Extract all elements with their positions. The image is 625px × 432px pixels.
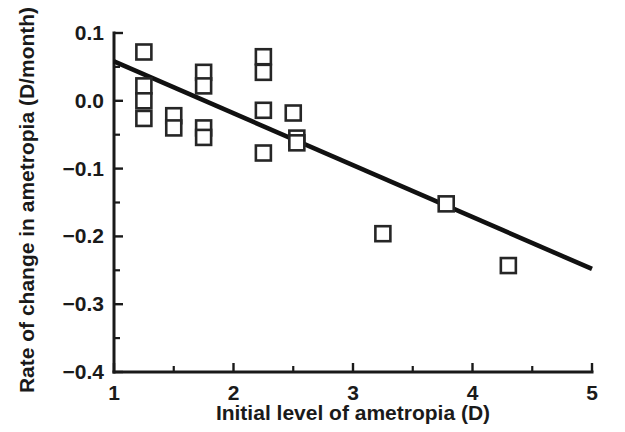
data-point-marker: [256, 49, 271, 64]
data-point-marker: [136, 44, 151, 59]
y-tick-label: 0.0: [75, 89, 104, 112]
y-axis-tick-labels: 0.10.0−0.1−0.2−0.3−0.4: [63, 21, 105, 383]
data-point-marker: [286, 106, 301, 121]
data-point-marker: [439, 196, 454, 211]
plot-canvas: 12345 0.10.0−0.1−0.2−0.3−0.4 Initial lev…: [0, 0, 625, 432]
data-point-marker: [136, 78, 151, 93]
data-points: [136, 44, 515, 273]
tick-marks: [114, 33, 592, 372]
y-tick-label: −0.2: [63, 224, 104, 247]
data-point-marker: [196, 130, 211, 145]
y-tick-label: −0.1: [63, 157, 105, 180]
y-axis-title: Rate of change in ametropia (D/month): [15, 7, 38, 393]
data-point-marker: [289, 135, 304, 150]
data-point-marker: [136, 111, 151, 126]
regression-line: [114, 61, 592, 268]
data-point-marker: [256, 146, 271, 161]
axes: [114, 33, 592, 372]
data-point-marker: [375, 226, 390, 241]
scatter-plot-figure: 12345 0.10.0−0.1−0.2−0.3−0.4 Initial lev…: [0, 0, 625, 432]
data-point-marker: [196, 78, 211, 93]
data-point-marker: [501, 258, 516, 273]
data-point-marker: [166, 120, 181, 135]
y-tick-label: 0.1: [75, 21, 105, 44]
data-point-marker: [136, 93, 151, 108]
regression-fit-line: [114, 61, 592, 268]
y-tick-label: −0.3: [63, 292, 104, 315]
data-point-marker: [256, 103, 271, 118]
data-point-marker: [256, 65, 271, 80]
y-tick-label: −0.4: [63, 360, 105, 383]
x-tick-label: 1: [108, 381, 120, 404]
x-tick-label: 5: [586, 381, 598, 404]
x-axis-title: Initial level of ametropia (D): [216, 401, 490, 424]
